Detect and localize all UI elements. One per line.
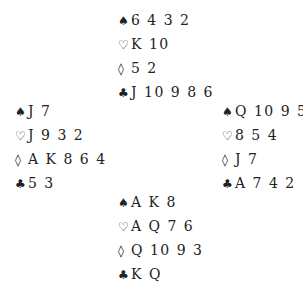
- heart-icon: ♡: [15, 124, 28, 148]
- east-hearts-cards: 8 5 4: [235, 127, 278, 143]
- west-hearts-cards: J 9 3 2: [28, 127, 84, 143]
- east-hearts: ♡8 5 4: [222, 123, 303, 147]
- south-spades: ♠A K 8: [118, 190, 203, 214]
- spade-icon: ♠: [118, 191, 131, 215]
- west-clubs: ♣5 3: [15, 171, 107, 195]
- heart-icon: ♡: [222, 124, 235, 148]
- south-clubs-cards: K Q: [131, 266, 162, 282]
- north-spades: ♠6 4 3 2: [118, 8, 214, 32]
- east-diamonds-cards: J 7: [235, 151, 258, 167]
- west-hearts: ♡J 9 3 2: [15, 123, 107, 147]
- heart-icon: ♡: [118, 33, 131, 57]
- diamond-icon: ◊: [222, 148, 235, 172]
- west-spades-cards: J 7: [28, 103, 51, 119]
- south-diamonds-cards: Q 10 9 3: [131, 242, 203, 258]
- west-hand: ♠J 7 ♡J 9 3 2 ◊A K 8 6 4 ♣5 3: [15, 99, 107, 195]
- club-icon: ♣: [222, 172, 235, 196]
- club-icon: ♣: [15, 172, 28, 196]
- east-diamonds: ◊J 7: [222, 147, 303, 171]
- east-clubs: ♣A 7 4 2: [222, 171, 303, 195]
- club-icon: ♣: [118, 81, 131, 105]
- south-hearts: ♡A Q 7 6: [118, 214, 203, 238]
- north-hearts-cards: K 10: [131, 36, 170, 52]
- east-hand: ♠Q 10 9 5 ♡8 5 4 ◊J 7 ♣A 7 4 2: [222, 99, 303, 195]
- south-clubs: ♣K Q: [118, 262, 203, 286]
- heart-icon: ♡: [118, 215, 131, 239]
- north-diamonds: ◊5 2: [118, 56, 214, 80]
- north-hearts: ♡K 10: [118, 32, 214, 56]
- diamond-icon: ◊: [15, 148, 28, 172]
- south-hand: ♠A K 8 ♡A Q 7 6 ◊Q 10 9 3 ♣K Q: [118, 190, 203, 286]
- north-spades-cards: 6 4 3 2: [131, 12, 190, 28]
- east-spades-cards: Q 10 9 5: [235, 103, 303, 119]
- diamond-icon: ◊: [118, 239, 131, 263]
- south-diamonds: ◊Q 10 9 3: [118, 238, 203, 262]
- spade-icon: ♠: [222, 100, 235, 124]
- north-diamonds-cards: 5 2: [131, 60, 158, 76]
- west-diamonds: ◊A K 8 6 4: [15, 147, 107, 171]
- south-spades-cards: A K 8: [131, 194, 177, 210]
- west-clubs-cards: 5 3: [28, 175, 55, 191]
- west-diamonds-cards: A K 8 6 4: [28, 151, 107, 167]
- east-clubs-cards: A 7 4 2: [235, 175, 296, 191]
- north-clubs: ♣J 10 9 8 6: [118, 80, 214, 104]
- spade-icon: ♠: [15, 100, 28, 124]
- south-hearts-cards: A Q 7 6: [131, 218, 194, 234]
- diamond-icon: ◊: [118, 57, 131, 81]
- east-spades: ♠Q 10 9 5: [222, 99, 303, 123]
- north-hand: ♠6 4 3 2 ♡K 10 ◊5 2 ♣J 10 9 8 6: [118, 8, 214, 104]
- west-spades: ♠J 7: [15, 99, 107, 123]
- club-icon: ♣: [118, 263, 131, 286]
- spade-icon: ♠: [118, 9, 131, 33]
- north-clubs-cards: J 10 9 8 6: [131, 84, 214, 100]
